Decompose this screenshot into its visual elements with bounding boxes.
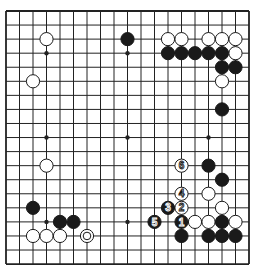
- black-stone: [202, 229, 215, 242]
- black-stone: [215, 47, 228, 60]
- move-number: 1: [179, 217, 185, 228]
- black-stone: [175, 47, 188, 60]
- black-stone: [215, 173, 228, 186]
- white-stone: [229, 33, 242, 46]
- move-1-black-stone: 1: [175, 215, 188, 228]
- white-stone: [215, 33, 228, 46]
- move-6-white-stone: 6: [175, 159, 188, 172]
- black-stone: [215, 61, 228, 74]
- star-point: [125, 220, 129, 224]
- white-stone: [202, 215, 215, 228]
- black-stone: [161, 47, 174, 60]
- white-stone: [53, 229, 66, 242]
- white-stone: [202, 33, 215, 46]
- white-stone: [80, 229, 93, 242]
- white-stone: [188, 215, 201, 228]
- white-stone: [40, 33, 53, 46]
- move-number: 2: [179, 202, 185, 213]
- move-number: 5: [152, 217, 158, 228]
- move-5-black-stone: 5: [148, 215, 161, 228]
- white-stone: [215, 75, 228, 88]
- black-stone: [26, 201, 39, 214]
- black-stone: [202, 47, 215, 60]
- star-point: [44, 220, 48, 224]
- black-stone: [202, 159, 215, 172]
- white-stone: [229, 47, 242, 60]
- white-stone: [40, 229, 53, 242]
- move-number: 6: [179, 160, 185, 171]
- black-stone: [53, 215, 66, 228]
- star-point: [125, 135, 129, 139]
- move-number: 3: [165, 202, 171, 213]
- white-stone: [26, 75, 39, 88]
- black-stone: [229, 229, 242, 242]
- white-stone: [40, 159, 53, 172]
- black-stone: [215, 229, 228, 242]
- move-4-white-stone: 4: [175, 187, 188, 200]
- black-stone: [175, 229, 188, 242]
- black-stone: [215, 103, 228, 116]
- black-stone: [215, 215, 228, 228]
- move-number: 4: [179, 188, 185, 199]
- star-point: [206, 135, 210, 139]
- go-board[interactable]: 123456: [0, 0, 254, 276]
- star-point: [44, 135, 48, 139]
- white-stone: [161, 33, 174, 46]
- white-stone: [202, 187, 215, 200]
- move-3-black-stone: 3: [161, 201, 174, 214]
- star-point: [125, 51, 129, 55]
- black-stone: [121, 33, 134, 46]
- black-stone: [67, 215, 80, 228]
- white-stone: [215, 201, 228, 214]
- black-stone: [229, 61, 242, 74]
- white-stone: [229, 215, 242, 228]
- move-2-white-stone: 2: [175, 201, 188, 214]
- black-stone: [188, 47, 201, 60]
- white-stone: [26, 229, 39, 242]
- white-stone: [175, 33, 188, 46]
- star-point: [44, 51, 48, 55]
